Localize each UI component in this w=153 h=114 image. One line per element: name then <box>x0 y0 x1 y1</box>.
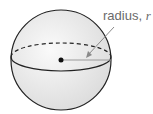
radius-label: radius, r <box>103 8 151 24</box>
center-point <box>59 58 64 63</box>
